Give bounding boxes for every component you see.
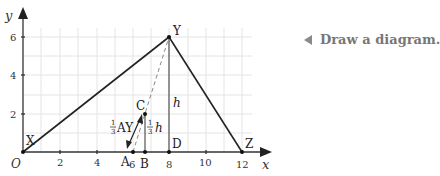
svg-text:h: h [155, 121, 163, 135]
label-a: A [120, 155, 130, 169]
svg-text:3: 3 [111, 128, 115, 136]
y-tick-6: 6 [10, 32, 16, 43]
x-axis-label: x [262, 157, 270, 172]
x-tick-6: 6 [129, 159, 135, 170]
label-c: C [136, 99, 145, 113]
x-tick-12: 12 [236, 159, 249, 170]
y-tick-4: 4 [10, 70, 16, 81]
third-h-label: 1 3 h [147, 119, 163, 136]
svg-text:3: 3 [148, 128, 152, 136]
label-x: X [26, 134, 35, 148]
label-b: B [140, 157, 149, 171]
svg-text:1: 1 [148, 119, 152, 127]
label-z: Z [245, 137, 253, 151]
grid [23, 28, 252, 152]
svg-text:1: 1 [111, 119, 115, 127]
x-tick-2: 2 [57, 157, 63, 168]
label-y: Y [172, 24, 182, 38]
point-x [21, 150, 25, 154]
caption-text: Draw a diagram. [320, 32, 440, 47]
point-z [240, 150, 244, 154]
left-triangle-icon [304, 35, 312, 45]
label-d: D [172, 137, 182, 151]
triangle-diagram: y x O 2 4 6 8 10 12 2 4 6 X Y [0, 0, 290, 176]
third-ay-label: 1 3 AY [110, 119, 134, 136]
point-b [143, 150, 147, 154]
x-tick-4: 4 [94, 157, 100, 168]
origin-label: O [11, 157, 21, 171]
x-tick-8: 8 [166, 159, 172, 170]
svg-text:AY: AY [116, 121, 134, 135]
label-h: h [173, 96, 181, 110]
point-y [167, 35, 171, 39]
point-a [131, 150, 135, 154]
instruction-caption: Draw a diagram. [304, 32, 440, 47]
y-axis-label: y [4, 8, 13, 23]
x-tick-10: 10 [199, 157, 212, 168]
point-d [167, 150, 171, 154]
y-tick-2: 2 [10, 109, 16, 120]
